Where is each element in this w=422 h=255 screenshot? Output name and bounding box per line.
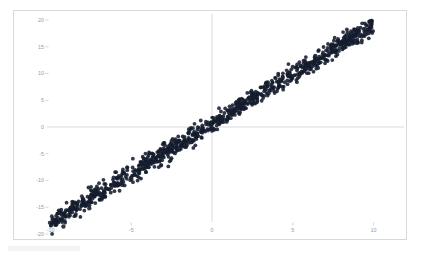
data-point-marker	[240, 97, 244, 101]
data-point-marker	[65, 201, 69, 205]
data-point-marker	[273, 76, 277, 80]
data-point-marker	[357, 29, 361, 33]
data-point-marker	[162, 141, 166, 145]
data-point-marker	[343, 38, 347, 42]
data-point-marker	[50, 214, 54, 218]
y-axis-tick-label: -15	[36, 204, 44, 210]
data-point-marker	[123, 183, 127, 187]
data-point-marker	[166, 165, 170, 169]
data-point-marker	[354, 39, 358, 43]
data-point-marker	[215, 120, 219, 124]
data-point-marker	[147, 160, 151, 164]
data-point-marker	[89, 200, 93, 204]
data-point-marker	[276, 86, 280, 90]
data-point-marker	[113, 189, 117, 193]
x-axis-tick-label: 0	[211, 227, 214, 233]
data-point-marker	[182, 141, 186, 145]
data-point-marker	[304, 55, 308, 59]
data-point-marker	[260, 99, 264, 103]
data-point-marker	[199, 135, 203, 139]
data-point-marker	[102, 182, 106, 186]
data-point-marker	[330, 58, 334, 62]
data-point-marker	[359, 35, 363, 39]
data-point-marker	[72, 214, 76, 218]
scatter-plot-svg: 20151050-5-10-15-20-10-50510	[0, 0, 422, 255]
data-point-marker	[364, 23, 368, 27]
data-point-marker	[219, 110, 223, 114]
data-point-marker	[228, 104, 232, 108]
data-point-marker	[197, 126, 201, 130]
data-point-marker	[360, 38, 364, 42]
data-point-marker	[204, 122, 208, 126]
data-point-marker	[330, 43, 334, 47]
data-point-marker	[184, 145, 188, 149]
data-point-marker	[169, 158, 173, 162]
data-point-marker	[201, 125, 205, 129]
data-point-marker	[231, 112, 235, 116]
data-point-marker	[109, 191, 113, 195]
data-point-marker	[301, 64, 305, 68]
data-point-marker	[334, 48, 338, 52]
x-axis-tick-label: 10	[371, 227, 377, 233]
data-point-marker	[136, 170, 140, 174]
data-point-marker	[248, 97, 252, 101]
data-point-marker	[237, 111, 241, 115]
data-point-marker	[304, 61, 308, 65]
data-point-marker	[324, 48, 328, 52]
data-point-marker	[260, 93, 264, 97]
data-point-marker	[117, 174, 121, 178]
data-point-marker	[154, 159, 158, 163]
data-point-marker	[236, 101, 240, 105]
data-point-marker	[227, 111, 231, 115]
data-point-marker	[245, 91, 249, 95]
data-point-outlier	[349, 32, 353, 36]
data-point-marker	[103, 195, 107, 199]
footer-artifact	[8, 246, 80, 251]
data-point-marker	[335, 43, 339, 47]
data-point-marker	[102, 178, 106, 182]
data-point-marker	[360, 21, 364, 25]
data-point-marker	[131, 180, 135, 184]
data-point-marker	[136, 179, 140, 183]
data-point-marker	[170, 146, 174, 150]
y-axis-tick-label: -20	[36, 231, 44, 237]
data-point-marker	[63, 214, 67, 218]
data-point-marker	[97, 181, 101, 185]
data-point-marker	[191, 126, 195, 130]
data-point-marker	[199, 119, 203, 123]
data-point-marker	[259, 86, 263, 90]
data-point-marker	[63, 210, 67, 214]
data-point-marker	[286, 62, 290, 66]
y-axis-tick-label: 10	[38, 70, 44, 76]
data-point-marker	[270, 85, 274, 89]
data-point-marker	[281, 71, 285, 75]
data-point-marker	[281, 75, 285, 79]
data-point-marker	[209, 122, 213, 126]
data-point-marker	[79, 215, 83, 219]
data-point-marker	[281, 88, 285, 92]
data-point-marker	[254, 90, 258, 94]
data-point-marker	[63, 219, 67, 223]
y-axis-tick-label: -5	[39, 151, 44, 157]
data-point-marker	[151, 155, 155, 159]
data-point-marker	[187, 127, 191, 131]
data-point-marker	[129, 176, 133, 180]
data-point-marker	[67, 215, 71, 219]
data-point-marker	[102, 190, 106, 194]
data-point-marker	[368, 21, 372, 25]
data-point-marker	[317, 48, 321, 52]
data-point-marker	[337, 46, 341, 50]
data-point-marker	[346, 42, 350, 46]
data-point-marker	[276, 73, 280, 77]
data-point-marker	[141, 167, 145, 171]
data-point-marker	[70, 211, 74, 215]
data-point-marker	[121, 170, 125, 174]
data-point-outlier	[173, 139, 177, 143]
data-point-marker	[100, 198, 104, 202]
data-point-marker	[157, 165, 161, 169]
data-point-marker	[125, 177, 129, 181]
data-point-marker	[176, 135, 180, 139]
data-point-marker	[370, 26, 374, 30]
data-point-marker	[283, 80, 287, 84]
data-point-marker	[162, 146, 166, 150]
